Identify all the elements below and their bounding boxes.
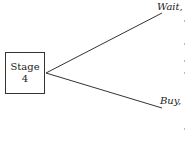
wait-branch-line <box>46 13 162 73</box>
stage-node-number: 4 <box>22 73 28 85</box>
margin-mark <box>184 72 185 74</box>
margin-mark <box>184 60 185 62</box>
stage-node: Stage 4 <box>5 52 45 94</box>
stage-node-label: Stage <box>10 61 39 73</box>
margin-mark <box>184 128 185 130</box>
decision-tree-diagram: Stage 4 Wait, Buy, <box>0 0 186 144</box>
margin-mark <box>184 43 185 45</box>
margin-mark <box>184 20 185 22</box>
buy-branch-label: Buy, <box>160 95 181 106</box>
buy-branch-line <box>46 73 162 108</box>
wait-branch-label: Wait, <box>157 1 183 12</box>
